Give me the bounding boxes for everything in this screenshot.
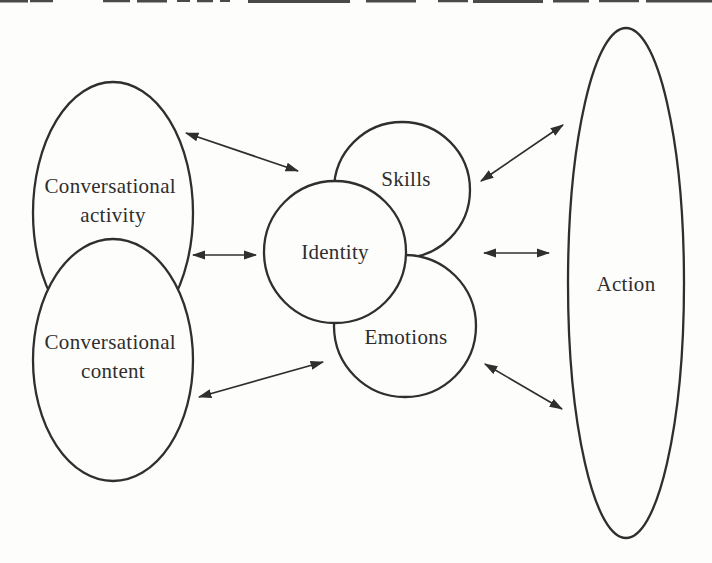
- diagram-canvas: Conversational activity Conversational c…: [0, 0, 712, 563]
- diagram-figure: Conversational activity Conversational c…: [0, 0, 712, 563]
- label-line: Conversational: [45, 330, 176, 354]
- page-edge-rule: [0, 0, 712, 3]
- arrow-activity-skills: [186, 133, 298, 171]
- arrow-skills-action: [481, 125, 563, 181]
- arrow-content-emotions: [199, 362, 323, 397]
- label-line: Conversational: [45, 174, 176, 198]
- node-identity-label: Identity: [301, 240, 369, 264]
- node-emotions-label: Emotions: [365, 325, 448, 349]
- node-skills-label: Skills: [381, 167, 431, 191]
- label-line: content: [81, 359, 145, 383]
- node-action-label: Action: [597, 272, 656, 296]
- arrow-emotions-action: [485, 364, 562, 409]
- label-line: activity: [80, 203, 146, 227]
